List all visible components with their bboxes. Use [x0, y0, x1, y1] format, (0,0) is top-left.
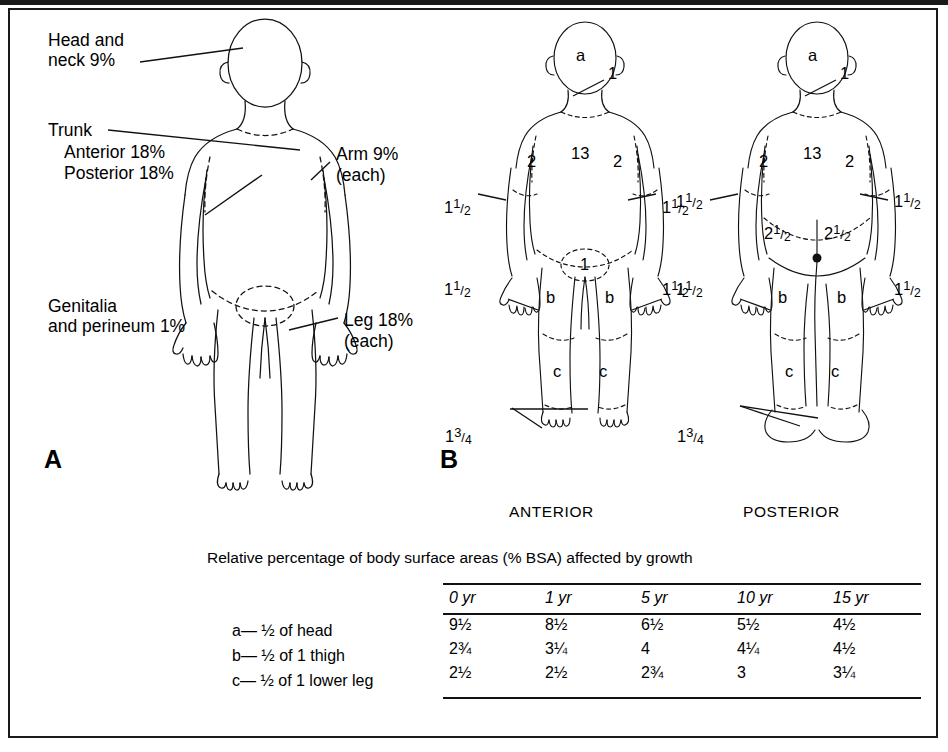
posterior-lower-leg-right-label: c [831, 362, 839, 381]
figure-root: A [0, 0, 948, 752]
table-row-label-b: b— ½ of 1 thigh [232, 644, 345, 669]
posterior-hand-right-value: 11/2 [894, 280, 921, 299]
posterior-hand-left-value: 11/2 [676, 280, 703, 299]
posterior-foot-value: 13/4 [677, 427, 704, 446]
posterior-trunk-value: 13 [803, 144, 821, 163]
table-caption: Relative percentage of body surface area… [207, 549, 693, 567]
table-row-label-a: a— ½ of head [232, 619, 333, 644]
anterior-thigh-left-label: b [546, 288, 555, 307]
anterior-trunk-value: 13 [571, 144, 589, 163]
posterior-lower-leg-left-label: c [785, 362, 793, 381]
anterior-neck-value: 1 [608, 64, 617, 83]
anterior-lower-leg-left-label: c [553, 362, 561, 381]
table-cell: 2½ [449, 661, 545, 685]
anterior-upper-arm-left-value: 2 [527, 152, 536, 171]
anterior-head-label: a [576, 46, 585, 65]
posterior-neck-value: 1 [840, 64, 849, 83]
posterior-upper-arm-right-value: 2 [845, 152, 854, 171]
table-column-header: 10 yr [737, 586, 833, 613]
table-cell: 4½ [833, 613, 921, 637]
anterior-forearm-left-value: 11/2 [444, 198, 471, 217]
table-column-header: 1 yr [545, 586, 641, 613]
table-cell: 3¼ [545, 637, 641, 661]
label-trunk-posterior: Posterior 18% [64, 163, 174, 183]
table-column-header: 5 yr [641, 586, 737, 613]
posterior-forearm-right-value: 11/2 [894, 192, 921, 211]
table-cell: 4½ [833, 637, 921, 661]
table-bottom-rule [443, 697, 921, 699]
panel-a-leader-lines [0, 0, 500, 500]
table-cell: 5½ [737, 613, 833, 637]
table-column-header: 0 yr [449, 586, 545, 613]
table-cell: 3 [737, 661, 833, 685]
posterior-upper-arm-left-value: 2 [759, 152, 768, 171]
table-cell: 2½ [545, 661, 641, 685]
anterior-thigh-right-label: b [605, 288, 614, 307]
label-leg: Leg 18% [344, 310, 413, 330]
label-arm: Arm 9% [336, 144, 398, 164]
label-genitalia-perineum: Genitalia and perineum 1% [48, 296, 185, 337]
anterior-genitalia-value: 1 [580, 255, 589, 274]
table-row-label-c: c— ½ of 1 lower leg [232, 669, 373, 694]
table-cell: 4 [641, 637, 737, 661]
table-cell: 4¼ [737, 637, 833, 661]
anterior-leader-lines [480, 22, 740, 462]
label-leg-each: (each) [344, 331, 394, 351]
table-row: 2½ 2½ 2¾ 3 3¼ [449, 661, 921, 685]
panel-letter-b: B [440, 445, 458, 474]
posterior-buttock-left-value: 21/2 [764, 224, 791, 243]
posterior-head-label: a [808, 46, 817, 65]
label-head-neck: Head and neck 9% [48, 30, 124, 71]
table-cell: 3¼ [833, 661, 921, 685]
posterior-view-label: POSTERIOR [743, 503, 840, 521]
table-cell: 6½ [641, 613, 737, 637]
table-top-rule [443, 583, 921, 585]
table-cell: 9½ [449, 613, 545, 637]
table-row: 9½ 8½ 6½ 5½ 4½ [449, 613, 921, 637]
label-trunk: Trunk [48, 120, 92, 140]
anterior-hand-left-value: 11/2 [444, 280, 471, 299]
table-header-row: 0 yr 1 yr 5 yr 10 yr 15 yr [449, 586, 921, 613]
anterior-lower-leg-right-label: c [599, 362, 607, 381]
table-cell: 2¾ [641, 661, 737, 685]
bsa-table: 0 yr 1 yr 5 yr 10 yr 15 yr 9½ 8½ 6½ 5½ 4… [449, 586, 921, 685]
anterior-view-label: ANTERIOR [509, 503, 594, 521]
label-trunk-anterior: Anterior 18% [64, 142, 165, 162]
anterior-foot-value: 13/4 [445, 427, 472, 446]
table-cell: 2¾ [449, 637, 545, 661]
posterior-thigh-right-label: b [837, 288, 846, 307]
posterior-buttock-right-value: 21/2 [824, 224, 851, 243]
posterior-thigh-left-label: b [778, 288, 787, 307]
anterior-upper-arm-right-value: 2 [613, 152, 622, 171]
label-arm-each: (each) [336, 165, 386, 185]
table-row: 2¾ 3¼ 4 4¼ 4½ [449, 637, 921, 661]
table-cell: 8½ [545, 613, 641, 637]
posterior-forearm-left-value: 11/2 [676, 192, 703, 211]
table-column-header: 15 yr [833, 586, 921, 613]
